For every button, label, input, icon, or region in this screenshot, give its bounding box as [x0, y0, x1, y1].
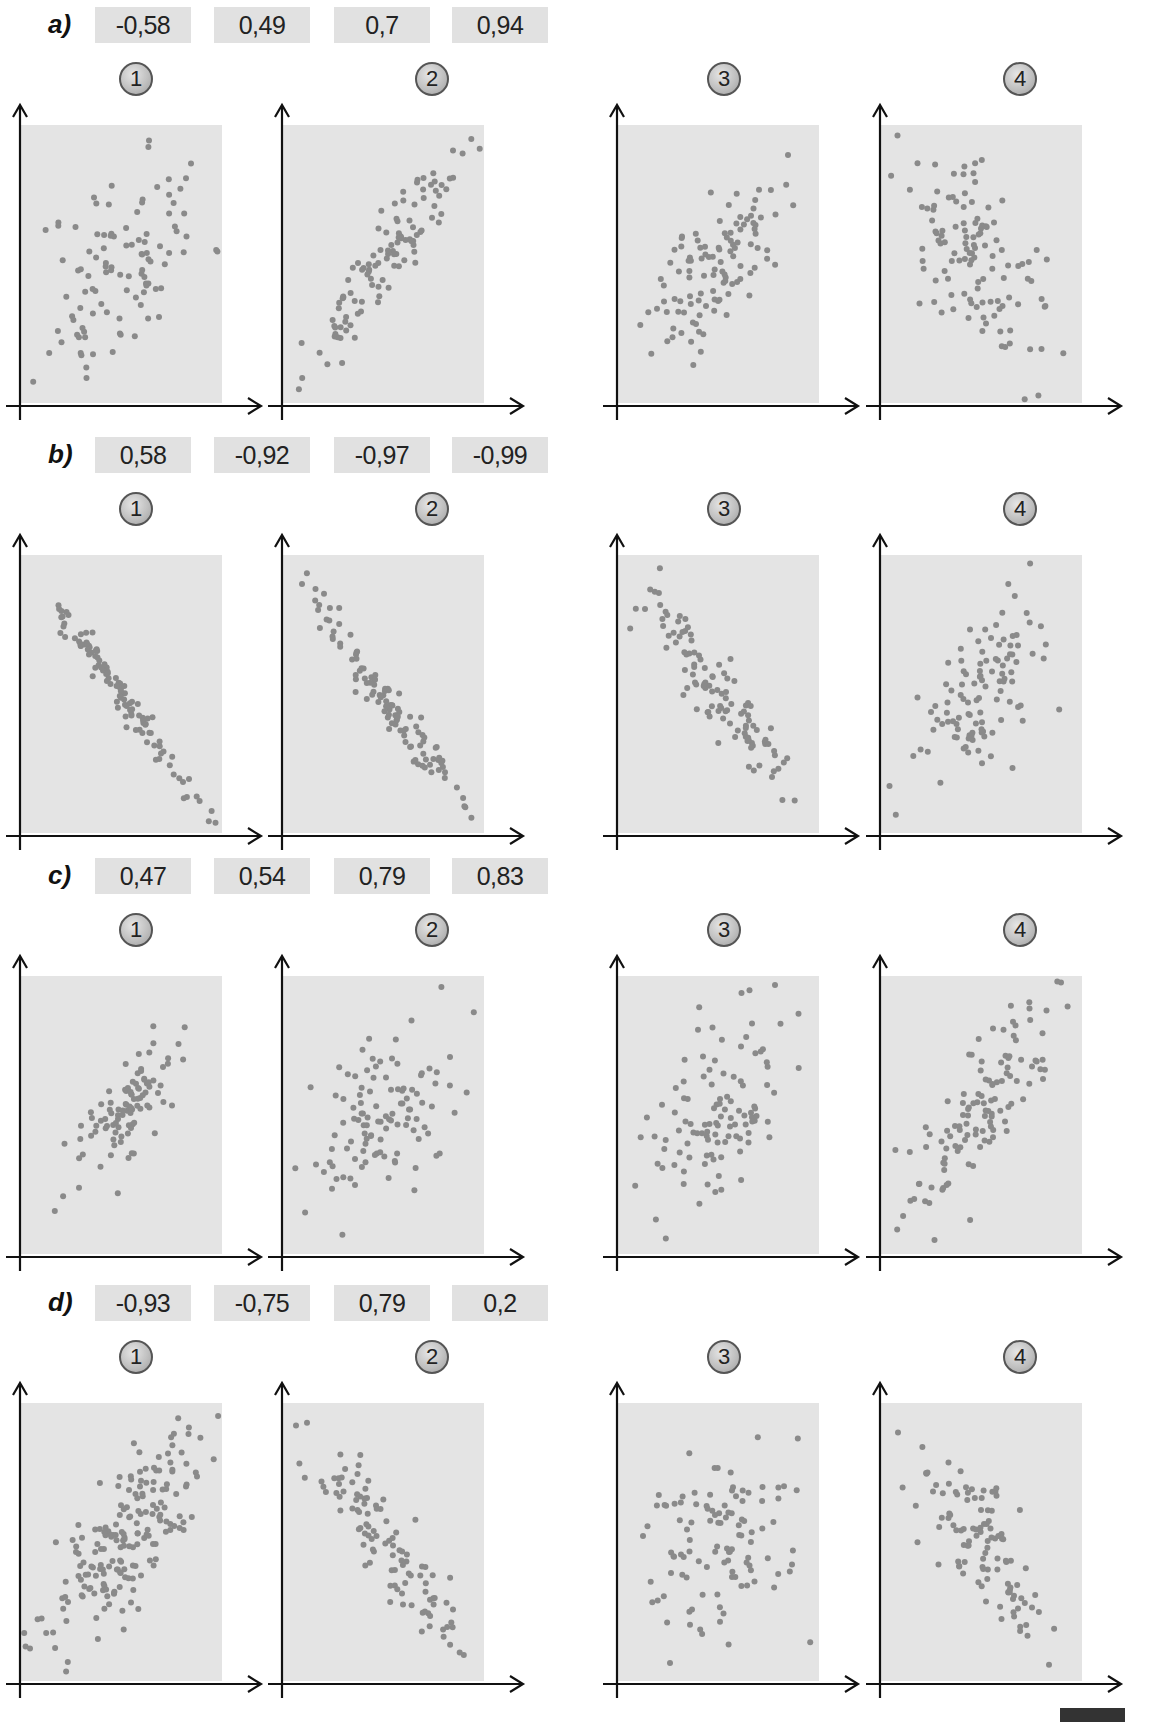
- panel-number-badge: 1: [119, 492, 153, 526]
- row-label: a): [48, 9, 71, 40]
- scatter-plot: [0, 525, 260, 873]
- scatter-plot: [597, 95, 857, 443]
- coefficient-option[interactable]: 0,79: [334, 1285, 430, 1321]
- scatter-plot: [860, 1373, 1120, 1721]
- panel-number-badge: 1: [119, 913, 153, 947]
- panel-number-badge: 1: [119, 1340, 153, 1374]
- panel-number-badge: 3: [707, 913, 741, 947]
- scatter-plot: [262, 1373, 522, 1721]
- panel-number-badge: 3: [707, 1340, 741, 1374]
- scatter-plot: [262, 95, 522, 443]
- scatter-plot: [262, 946, 522, 1294]
- coefficient-option[interactable]: -0,93: [95, 1285, 191, 1321]
- scatter-plot: [860, 95, 1120, 443]
- panel-number-badge: 3: [707, 492, 741, 526]
- scatter-plot: [0, 946, 260, 1294]
- plot-area: [880, 555, 1082, 833]
- scatter-plot: [597, 946, 857, 1294]
- plot-area: [617, 1403, 819, 1681]
- scatter-plot: [0, 95, 260, 443]
- scatter-plot: [262, 525, 522, 873]
- scatter-plot: [860, 525, 1120, 873]
- panel-number-badge: 2: [415, 62, 449, 96]
- coefficient-option[interactable]: -0,58: [95, 7, 191, 43]
- coefficient-option[interactable]: 0,79: [334, 858, 430, 894]
- panel-number-badge: 2: [415, 492, 449, 526]
- row-label: c): [48, 860, 71, 891]
- row-label: d): [48, 1287, 73, 1318]
- plot-area: [880, 976, 1082, 1254]
- coefficient-option[interactable]: 0,47: [95, 858, 191, 894]
- coefficient-option[interactable]: 0,58: [95, 437, 191, 473]
- coefficient-option[interactable]: 0,7: [334, 7, 430, 43]
- panel-number-badge: 3: [707, 62, 741, 96]
- plot-area: [880, 1403, 1082, 1681]
- coefficient-option[interactable]: -0,92: [214, 437, 310, 473]
- panel-number-badge: 4: [1003, 1340, 1037, 1374]
- coefficient-option[interactable]: -0,75: [214, 1285, 310, 1321]
- coefficient-option[interactable]: 0,54: [214, 858, 310, 894]
- row-label: b): [48, 439, 73, 470]
- scatter-plot: [860, 946, 1120, 1294]
- panel-number-badge: 2: [415, 913, 449, 947]
- coefficient-option[interactable]: -0,99: [452, 437, 548, 473]
- scatter-plot: [0, 1373, 260, 1721]
- coefficient-option[interactable]: 0,83: [452, 858, 548, 894]
- plot-area: [617, 125, 819, 403]
- coefficient-option[interactable]: 0,49: [214, 7, 310, 43]
- scatter-plot: [597, 1373, 857, 1721]
- panel-number-badge: 2: [415, 1340, 449, 1374]
- plot-area: [20, 125, 222, 403]
- panel-number-badge: 4: [1003, 62, 1037, 96]
- coefficient-option[interactable]: 0,2: [452, 1285, 548, 1321]
- page-number-tab: [1060, 1708, 1125, 1722]
- plot-area: [617, 555, 819, 833]
- plot-area: [282, 125, 484, 403]
- coefficient-option[interactable]: 0,94: [452, 7, 548, 43]
- scatter-plot: [597, 525, 857, 873]
- coefficient-option[interactable]: -0,97: [334, 437, 430, 473]
- panel-number-badge: 4: [1003, 492, 1037, 526]
- panel-number-badge: 4: [1003, 913, 1037, 947]
- panel-number-badge: 1: [119, 62, 153, 96]
- plot-area: [880, 125, 1082, 403]
